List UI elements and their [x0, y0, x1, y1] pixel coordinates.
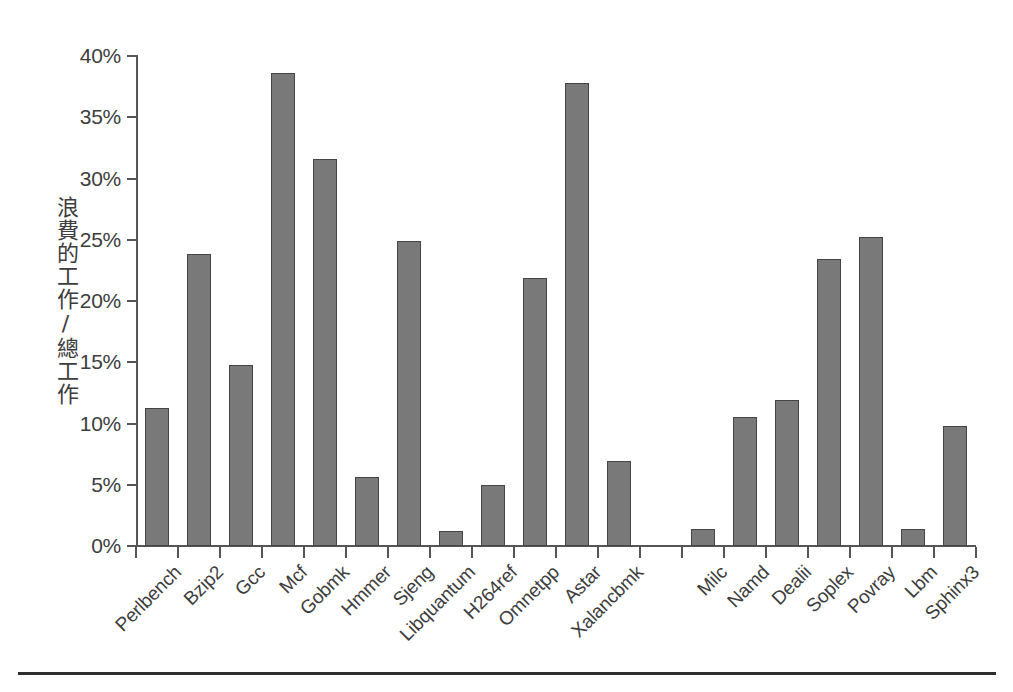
x-tick-mark [723, 547, 725, 558]
bar [691, 529, 715, 546]
y-tick-label: 25% [51, 229, 121, 250]
y-tick-mark [127, 300, 136, 302]
bar [733, 417, 757, 546]
x-tick-mark [891, 547, 893, 558]
bar [271, 73, 295, 546]
x-tick-mark [261, 547, 263, 558]
x-tick-mark [429, 547, 431, 558]
bar [397, 241, 421, 546]
x-tick-mark [807, 547, 809, 558]
x-tick-mark [681, 547, 683, 558]
y-tick-mark [127, 484, 136, 486]
x-tick-mark [471, 547, 473, 558]
bar [565, 83, 589, 546]
y-tick-mark [127, 178, 136, 180]
y-tick-label: 20% [51, 290, 121, 311]
x-tick-mark [597, 547, 599, 558]
y-tick-label: 30% [51, 168, 121, 189]
bar [145, 408, 169, 546]
x-tick-mark [639, 547, 641, 558]
bar [943, 426, 967, 546]
chart-figure: 浪費的工作/總工作 0%5%10%15%20%25%30%35%40% Perl… [0, 0, 1013, 692]
bar [523, 278, 547, 546]
bar [313, 159, 337, 546]
x-tick-mark [345, 547, 347, 558]
y-tick-label: 10% [51, 413, 121, 434]
bar [859, 237, 883, 546]
y-tick-label: 0% [51, 535, 121, 556]
y-tick-mark [127, 55, 136, 57]
bar [229, 365, 253, 546]
y-tick-label: 40% [51, 45, 121, 66]
x-tick-mark [135, 547, 137, 558]
x-tick-mark [975, 547, 977, 558]
bar [187, 254, 211, 546]
bar [607, 461, 631, 546]
x-tick-mark [177, 547, 179, 558]
y-tick-mark [127, 361, 136, 363]
x-tick-mark [303, 547, 305, 558]
bottom-divider [18, 672, 996, 675]
x-tick-mark [513, 547, 515, 558]
bar [817, 259, 841, 546]
x-tick-mark [555, 547, 557, 558]
y-tick-mark [127, 239, 136, 241]
y-tick-mark [127, 116, 136, 118]
x-tick-mark [387, 547, 389, 558]
x-tick-mark [765, 547, 767, 558]
y-tick-label: 5% [51, 474, 121, 495]
y-tick-label: 35% [51, 106, 121, 127]
bar [481, 485, 505, 546]
bar [901, 529, 925, 546]
x-tick-mark [933, 547, 935, 558]
y-tick-label: 15% [51, 351, 121, 372]
y-tick-mark [127, 423, 136, 425]
x-tick-mark [849, 547, 851, 558]
y-axis-spine [136, 55, 138, 547]
x-tick-mark [219, 547, 221, 558]
bar [355, 477, 379, 546]
bar [775, 400, 799, 546]
bar [439, 531, 463, 546]
